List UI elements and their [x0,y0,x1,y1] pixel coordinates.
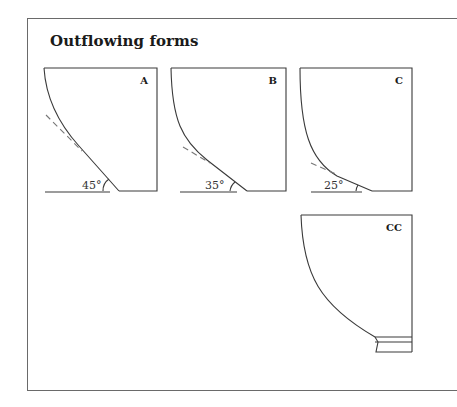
panel-a [44,68,157,192]
panel-c-label: C [395,75,403,86]
panel-c [300,68,412,192]
panel-cc [301,215,412,352]
panel-b-angle: 35° [205,179,225,192]
panel-a-angle: 45° [82,179,102,192]
panel-cc-label: CC [386,222,402,233]
panel-c-angle: 25° [324,179,344,192]
panel-a-label: A [139,75,148,86]
panel-b [171,68,286,192]
panel-b-label: B [269,75,277,86]
